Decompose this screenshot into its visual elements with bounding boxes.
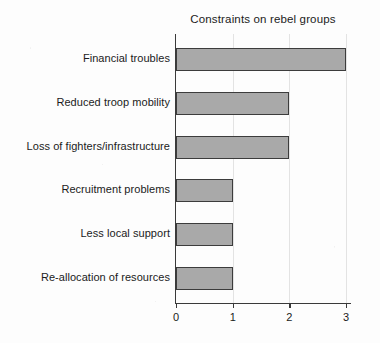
bar bbox=[176, 136, 289, 159]
x-tick-label: 0 bbox=[173, 311, 179, 323]
category-label: Loss of fighters/infrastructure bbox=[0, 140, 176, 152]
x-tick-mark bbox=[289, 303, 290, 308]
x-axis-line bbox=[176, 303, 351, 304]
category-label: Re-allocation of resources bbox=[0, 271, 176, 283]
gridline bbox=[233, 34, 234, 303]
bar bbox=[176, 223, 233, 246]
bar bbox=[176, 92, 289, 115]
bar-chart-figure: Constraints on rebel groups Financial tr… bbox=[0, 0, 380, 343]
x-tick-label: 3 bbox=[343, 311, 349, 323]
bar bbox=[176, 48, 346, 71]
x-tick-mark bbox=[233, 303, 234, 308]
x-tick-label: 1 bbox=[230, 311, 236, 323]
category-label: Less local support bbox=[0, 227, 176, 239]
category-label: Financial troubles bbox=[0, 52, 176, 64]
y-axis-line bbox=[175, 34, 176, 304]
x-tick-label: 2 bbox=[286, 311, 292, 323]
category-label: Recruitment problems bbox=[0, 183, 176, 195]
bar bbox=[176, 179, 233, 202]
chart-title: Constraints on rebel groups bbox=[176, 13, 350, 25]
bar bbox=[176, 267, 233, 290]
gridline bbox=[346, 34, 347, 303]
x-tick-mark bbox=[176, 303, 177, 308]
x-tick-mark bbox=[346, 303, 347, 308]
category-label: Reduced troop mobility bbox=[0, 96, 176, 108]
gridline bbox=[289, 34, 290, 303]
